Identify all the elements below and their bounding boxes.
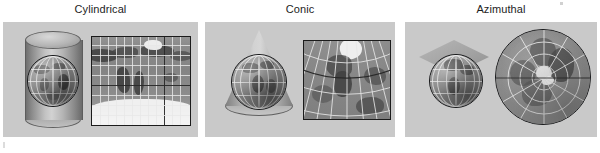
map-graticule (92, 37, 190, 125)
northern-hemisphere-conic-map (303, 40, 391, 120)
conic-stage (205, 22, 395, 137)
globe-shading (430, 55, 482, 107)
map-graticule (304, 41, 390, 119)
scan-artifact-top-right (560, 2, 563, 5)
panel-label-cylindrical: Cylindrical (3, 3, 198, 16)
cylinder-solid (25, 31, 81, 128)
cylindrical-stage (3, 22, 198, 137)
map-image (92, 37, 190, 125)
panel-label-conic: Conic (205, 3, 395, 16)
globe-shading (232, 55, 286, 109)
panel-label-azimuthal: Azimuthal (405, 3, 597, 16)
globe-in-cone (231, 54, 287, 110)
map-projection-figure: Cylindrical (0, 0, 600, 153)
cylinder-top-ellipse (25, 31, 81, 49)
panel-azimuthal (405, 22, 597, 137)
polar-azimuthal-map (495, 29, 591, 125)
map-shading (496, 30, 590, 124)
panel-cylindrical (3, 22, 198, 137)
scan-artifact-bottom-left (3, 142, 5, 148)
cone-solid (222, 30, 296, 128)
map-image (304, 41, 390, 119)
globe-shading (28, 56, 78, 106)
world-cylindrical-map (91, 36, 191, 126)
plane-and-globe-solid (413, 34, 495, 126)
globe-under-plane (429, 54, 483, 108)
panel-conic (205, 22, 395, 137)
globe-in-cylinder (27, 55, 79, 107)
azimuthal-stage (405, 22, 597, 137)
